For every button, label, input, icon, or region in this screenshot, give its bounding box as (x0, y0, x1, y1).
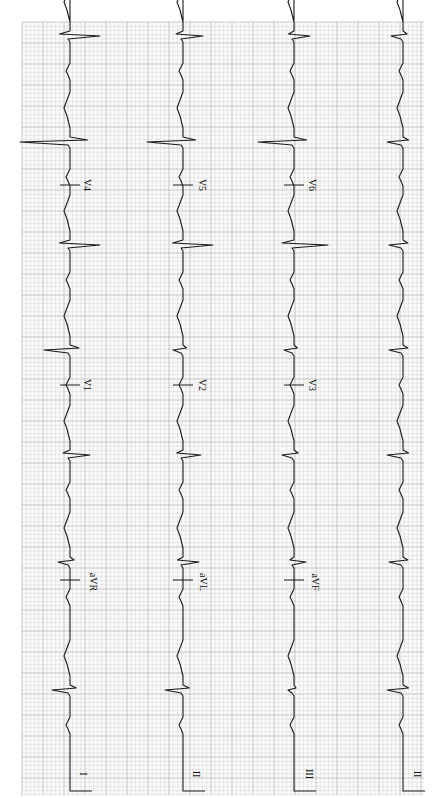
lead-label: V1 (82, 379, 93, 391)
lead-label: III (304, 769, 315, 779)
lead-label: V3 (307, 379, 318, 391)
lead-label: aVR (88, 573, 99, 592)
lead-label: aVF (310, 573, 321, 591)
lead-label: V6 (307, 179, 318, 191)
lead-label: V4 (82, 179, 93, 191)
lead-label: II (412, 771, 423, 778)
ecg-chart: IIIIIIIIaVRaVLaVFV1V2V3V4V5V6 (0, 0, 437, 798)
ecg-grid (22, 22, 424, 795)
lead-label: II (191, 771, 202, 778)
lead-label: V2 (197, 379, 208, 391)
lead-label: I (78, 772, 89, 775)
lead-label: V5 (197, 179, 208, 191)
lead-label: aVL (198, 573, 209, 591)
